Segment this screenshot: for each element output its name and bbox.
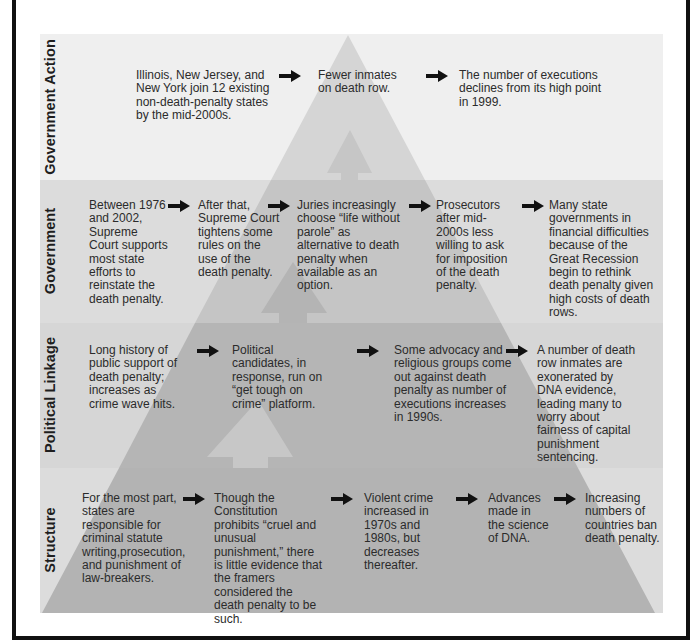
node-structure-5: Increasing numbers of countries ban deat…	[585, 492, 663, 546]
node-government-5: Many state governments in financial diff…	[549, 199, 661, 320]
band-label-text: Government Action	[42, 39, 58, 175]
right-arrow-icon	[197, 345, 219, 357]
node-government-action-3: The number of executions declines from i…	[459, 69, 609, 109]
right-arrow-icon	[168, 200, 190, 212]
node-government-3: Juries increasingly choose “life without…	[297, 199, 401, 293]
node-government-4: Prosecutors after mid-2000s less willing…	[436, 199, 518, 293]
right-arrow-icon	[357, 345, 379, 357]
node-government-action-2: Fewer inmates on death row.	[318, 69, 413, 96]
node-structure-1: For the most part, states are responsibl…	[82, 492, 186, 586]
band-label-text: Structure	[42, 507, 58, 572]
right-arrow-icon	[506, 345, 528, 357]
band-label-text: Political Linkage	[42, 337, 58, 453]
right-arrow-icon	[331, 493, 353, 505]
right-arrow-icon	[554, 493, 576, 505]
band-label-text: Government	[42, 208, 58, 294]
right-arrow-icon	[522, 200, 544, 212]
node-structure-3: Violent crime increased in 1970s and 198…	[364, 492, 454, 572]
right-arrow-icon	[409, 200, 431, 212]
node-government-1: Between 1976 and 2002, Supreme Court sup…	[89, 199, 169, 306]
right-arrow-icon	[279, 70, 301, 82]
right-arrow-icon	[268, 200, 290, 212]
right-arrow-icon	[183, 493, 205, 505]
right-arrow-icon	[426, 70, 448, 82]
node-structure-2: Though the Constitution prohibits “cruel…	[214, 492, 326, 626]
node-structure-4: Advances made in the science of DNA.	[488, 492, 550, 546]
node-political-linkage-4: A number of death row inmates are exoner…	[537, 344, 637, 465]
node-political-linkage-1: Long history of public support of death …	[89, 344, 189, 411]
node-political-linkage-2: Political candidates, in response, run o…	[232, 344, 337, 411]
node-political-linkage-3: Some advocacy and religious groups come …	[394, 344, 512, 424]
right-arrow-icon	[456, 493, 478, 505]
node-government-action-1: Illinois, New Jersey, and New York join …	[136, 69, 271, 123]
